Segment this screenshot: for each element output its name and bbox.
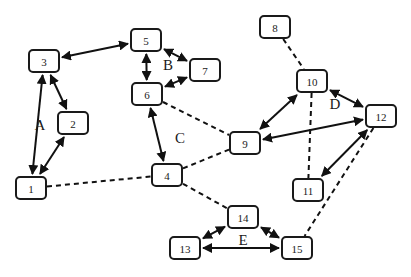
region-label-a: A <box>35 117 46 133</box>
node-label: 8 <box>272 22 278 34</box>
edge-4-14 <box>183 184 227 208</box>
edge-9-12 <box>263 120 363 140</box>
node-10: 10 <box>297 70 327 92</box>
edge-1-2 <box>40 137 64 174</box>
node-label: 9 <box>242 138 248 150</box>
node-label: 14 <box>238 212 250 224</box>
node-label: 2 <box>70 118 76 130</box>
node-label: 6 <box>144 89 150 101</box>
edge-6-9 <box>163 102 229 135</box>
edge-8-10 <box>283 39 304 69</box>
node-1: 1 <box>16 177 46 199</box>
node-label: 5 <box>143 35 149 47</box>
node-label: 13 <box>180 243 192 255</box>
node-6: 6 <box>132 83 162 105</box>
node-label: 10 <box>307 76 319 88</box>
node-12: 12 <box>366 105 396 127</box>
edge-13-14 <box>203 227 225 239</box>
node-4: 4 <box>152 164 182 186</box>
region-label-c: C <box>175 130 185 146</box>
region-label-b: B <box>163 57 173 73</box>
node-5: 5 <box>131 29 161 51</box>
regions-layer: ABCDE <box>35 57 341 248</box>
node-15: 15 <box>282 237 312 259</box>
node-3: 3 <box>29 50 59 72</box>
node-label: 15 <box>292 243 304 255</box>
node-2: 2 <box>58 112 88 134</box>
edge-6-4 <box>151 108 164 161</box>
nodes-layer: 123456789101112131415 <box>16 16 396 259</box>
node-label: 4 <box>164 170 170 182</box>
node-label: 1 <box>28 183 34 195</box>
node-label: 11 <box>303 185 314 197</box>
node-8: 8 <box>260 16 290 38</box>
edge-9-10 <box>260 95 297 129</box>
node-11: 11 <box>293 179 323 201</box>
diagram-canvas: 123456789101112131415 ABCDE <box>0 0 411 277</box>
edge-10-11 <box>308 93 311 178</box>
edge-3-5 <box>62 44 128 58</box>
edge-12-11 <box>322 130 367 176</box>
edge-14-15 <box>261 227 279 237</box>
edge-3-2 <box>51 75 67 109</box>
region-label-d: D <box>330 96 341 112</box>
node-9: 9 <box>230 132 260 154</box>
node-label: 3 <box>41 56 47 68</box>
node-13: 13 <box>170 237 200 259</box>
region-label-e: E <box>238 232 247 248</box>
node-7: 7 <box>190 59 220 81</box>
edge-4-9 <box>183 150 229 169</box>
edge-6-7 <box>165 77 187 86</box>
edge-1-4 <box>47 177 151 187</box>
network-diagram: 123456789101112131415 ABCDE <box>0 0 411 277</box>
node-label: 12 <box>376 111 387 123</box>
node-14: 14 <box>228 206 258 228</box>
node-label: 7 <box>202 65 208 77</box>
